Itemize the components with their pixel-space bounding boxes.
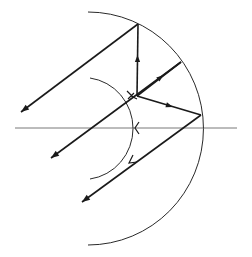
outer-mirror-arc	[88, 12, 203, 245]
direction-arrow-icon	[135, 55, 140, 62]
ray-top-left	[21, 24, 138, 112]
optics-diagram	[0, 0, 252, 257]
tick-mark-lower	[129, 155, 137, 163]
arrowheads	[19, 55, 173, 204]
inner-mirror-arc	[90, 78, 133, 179]
